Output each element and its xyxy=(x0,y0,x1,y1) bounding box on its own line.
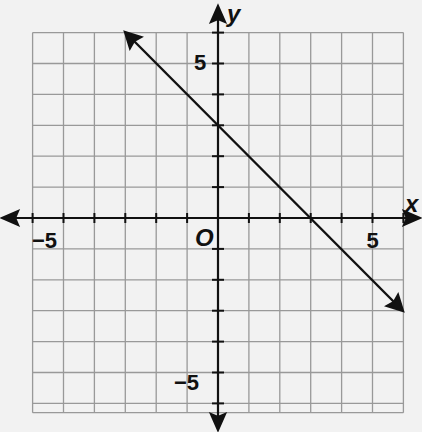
y-axis-label: y xyxy=(226,0,242,27)
y-tick-label-5: 5 xyxy=(194,50,206,75)
x-tick-label-5: 5 xyxy=(367,228,379,253)
data-line xyxy=(125,32,403,311)
origin-label: O xyxy=(195,224,214,251)
line-y-equals-neg-x-plus-3 xyxy=(132,39,396,304)
coordinate-plane: y x O −5 5 5 −5 xyxy=(0,0,422,432)
x-tick-label-neg5: −5 xyxy=(32,228,57,253)
y-tick-label-neg5: −5 xyxy=(174,370,199,395)
x-axis-arrow-left-icon xyxy=(2,211,18,225)
y-axis-arrow-down-icon xyxy=(211,414,225,430)
x-axis-label: x xyxy=(403,190,420,217)
axes xyxy=(2,6,420,430)
y-axis-arrow-up-icon xyxy=(211,6,225,22)
